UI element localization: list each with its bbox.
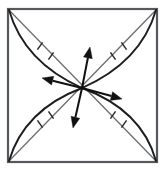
- figure-container: [0, 0, 165, 177]
- diagram-canvas: [0, 0, 165, 177]
- center-point: [80, 86, 83, 89]
